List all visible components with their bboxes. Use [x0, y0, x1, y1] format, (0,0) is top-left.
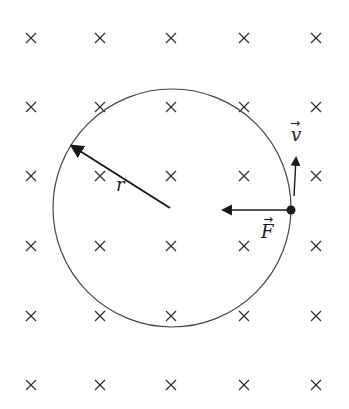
- field-x-mark: [166, 33, 176, 43]
- field-x-mark: [166, 380, 176, 390]
- field-x-mark: [95, 33, 105, 43]
- field-x-mark: [95, 241, 105, 251]
- field-x-mark: [26, 311, 36, 321]
- magnetic-field-diagram: r → F → v: [0, 0, 349, 409]
- field-x-mark: [26, 171, 36, 181]
- velocity-label: v: [291, 124, 301, 145]
- field-x-mark: [311, 33, 321, 43]
- field-x-marks: [26, 33, 321, 390]
- field-x-mark: [26, 241, 36, 251]
- field-x-mark: [166, 102, 176, 112]
- radius-label: r: [116, 174, 125, 195]
- field-x-mark: [239, 241, 249, 251]
- field-x-mark: [26, 102, 36, 112]
- circular-path: [53, 89, 291, 327]
- field-x-mark: [311, 171, 321, 181]
- charged-particle: [287, 206, 296, 215]
- field-x-mark: [95, 311, 105, 321]
- field-x-mark: [95, 171, 105, 181]
- field-x-mark: [166, 171, 176, 181]
- field-x-mark: [239, 33, 249, 43]
- field-x-mark: [311, 241, 321, 251]
- field-x-mark: [166, 311, 176, 321]
- field-x-mark: [311, 311, 321, 321]
- field-x-mark: [95, 380, 105, 390]
- field-x-mark: [311, 102, 321, 112]
- field-x-mark: [26, 33, 36, 43]
- field-x-mark: [239, 380, 249, 390]
- field-x-mark: [239, 311, 249, 321]
- field-x-mark: [26, 380, 36, 390]
- field-x-mark: [166, 241, 176, 251]
- field-x-mark: [239, 171, 249, 181]
- diagram-canvas: [0, 0, 349, 409]
- velocity-arrow: [294, 158, 296, 196]
- force-label: F: [261, 221, 274, 242]
- field-x-mark: [311, 380, 321, 390]
